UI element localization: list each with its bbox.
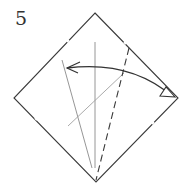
edge-tick	[67, 40, 69, 42]
edge-tick	[124, 42, 126, 44]
paper-outline	[14, 13, 178, 182]
edge-tick	[35, 118, 37, 120]
origami-diagram	[0, 0, 190, 187]
edge-tick	[152, 122, 154, 124]
diagonal-crease	[68, 73, 124, 126]
fold-arrow-curve	[67, 67, 172, 96]
